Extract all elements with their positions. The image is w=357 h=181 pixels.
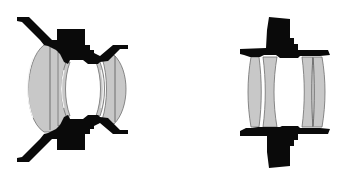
right-lens-diagram	[240, 17, 330, 168]
left-lens-diagram	[17, 17, 128, 162]
right-barrel-top	[240, 17, 330, 58]
right-front-element-2	[263, 57, 277, 127]
right-barrel-bottom	[240, 126, 330, 168]
left-barrel-top	[17, 17, 128, 64]
left-barrel-bottom	[17, 115, 128, 162]
right-front-element-1	[248, 57, 261, 127]
right-rear-element-2	[313, 57, 325, 127]
left-rear-element	[102, 55, 126, 124]
right-rear-element-1	[302, 57, 313, 127]
lens-diagrams	[0, 0, 357, 181]
